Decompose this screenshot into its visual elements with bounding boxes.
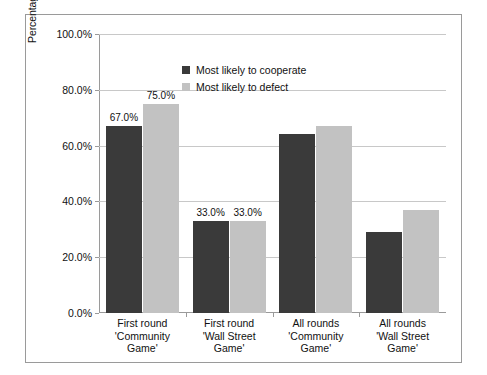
x-axis-category-line: Game' (348, 342, 458, 355)
bar-defect[interactable] (316, 126, 352, 313)
y-axis-tick-label: 100.0% (56, 28, 92, 40)
x-axis-category-line: All rounds (348, 317, 458, 330)
bar-defect[interactable] (143, 104, 179, 313)
x-axis-category-line: 'Wall Street (348, 330, 458, 343)
bar-defect[interactable] (403, 210, 439, 313)
legend-item-cooperate: Most likely to cooperate (182, 61, 306, 78)
chart-figure: Percentage of participants cooperating 0… (25, 14, 462, 363)
bar-data-label: 67.0% (110, 112, 138, 123)
y-axis-tick (95, 313, 99, 314)
legend-swatch-cooperate-icon (182, 66, 190, 74)
bar-cooperate[interactable] (366, 232, 402, 313)
y-axis-tick-label: 40.0% (62, 195, 92, 207)
y-axis-tick-label: 60.0% (62, 140, 92, 152)
bar-cooperate[interactable] (193, 221, 229, 313)
legend-swatch-defect-icon (182, 83, 190, 91)
bar-cooperate[interactable] (279, 134, 315, 313)
y-axis-title: Percentage of participants cooperating (23, 0, 41, 75)
y-axis-tick-label: 20.0% (62, 251, 92, 263)
legend-item-defect: Most likely to defect (182, 78, 306, 95)
bar-data-label: 33.0% (196, 207, 224, 218)
bar-group (359, 34, 446, 313)
bar-group: 67.0%75.0% (99, 34, 186, 313)
plot-area: 0.0%20.0%40.0%60.0%80.0%100.0% 67.0%75.0… (99, 34, 446, 313)
legend-label-defect: Most likely to defect (196, 81, 288, 93)
bar-defect[interactable] (230, 221, 266, 313)
legend-label-cooperate: Most likely to cooperate (196, 64, 306, 76)
bar-cooperate[interactable] (106, 126, 142, 313)
bar-data-label: 33.0% (233, 207, 261, 218)
legend: Most likely to cooperate Most likely to … (182, 61, 306, 95)
bar-data-label: 75.0% (147, 90, 175, 101)
y-axis-tick-label: 80.0% (62, 84, 92, 96)
x-axis-category-label: All rounds'Wall StreetGame' (348, 317, 458, 355)
